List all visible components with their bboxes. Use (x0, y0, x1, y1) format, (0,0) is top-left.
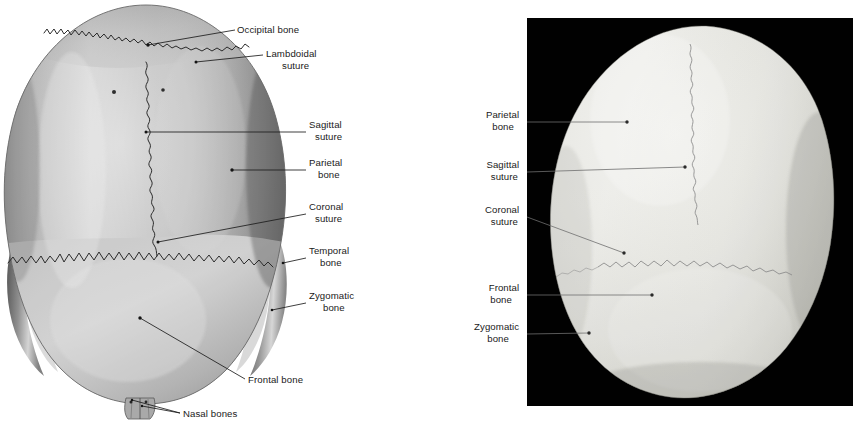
label-coronal-suture: Coronal suture (309, 201, 346, 224)
label-occipital-bone: Occipital bone (237, 24, 299, 35)
label-sagittal-suture: Sagittal suture (309, 119, 345, 142)
nasal-bones-illustration (125, 398, 155, 419)
figure-canvas: Occipital bone Lambdoidal suture Sagitta… (0, 0, 853, 423)
label-sagittal-suture-photo: Sagittal suture (486, 159, 522, 182)
label-coronal-suture-photo: Coronal suture (485, 204, 522, 227)
label-frontal-bone: Frontal bone (248, 374, 303, 385)
anatomy-figure: Occipital bone Lambdoidal suture Sagitta… (0, 0, 853, 423)
parietal-foramen-left (112, 90, 116, 94)
right-panel-photograph: Parietal bone Sagittal suture Coronal su… (474, 18, 853, 422)
label-nasal-bones: Nasal bones (183, 408, 238, 419)
parietal-foramen-right (161, 88, 165, 92)
